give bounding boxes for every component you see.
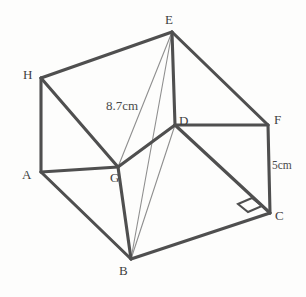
- vertex-label-f: F: [274, 113, 281, 126]
- measurement-label-slant-length: 8.7cm: [106, 99, 138, 112]
- edge-ef: [172, 32, 268, 125]
- edge-bc: [131, 213, 270, 259]
- edge-ed: [172, 32, 175, 125]
- right-angle-markers-group: [238, 198, 262, 212]
- edge-ag: [41, 167, 118, 172]
- vertex-label-b: B: [119, 264, 128, 277]
- right-angle-at-c-marker: [238, 198, 262, 212]
- edge-fc: [268, 125, 270, 213]
- edge-he: [41, 32, 172, 78]
- edge-gb: [118, 167, 131, 259]
- diagonal-eb: [131, 32, 172, 259]
- vertex-label-e: E: [165, 13, 173, 26]
- vertex-label-d: D: [179, 114, 188, 127]
- geometry-diagram: EHFDAGCB 8.7cm5cm: [0, 0, 306, 297]
- vertex-label-a: A: [22, 168, 31, 181]
- vertex-label-h: H: [23, 68, 32, 81]
- cuboid-edges-group: [41, 32, 270, 259]
- vertex-label-c: C: [275, 209, 284, 222]
- measurement-label-height: 5cm: [272, 160, 292, 172]
- edge-ab: [41, 172, 131, 259]
- vertex-label-g: G: [110, 171, 119, 184]
- edge-hg: [41, 78, 118, 167]
- cuboid-drawing: [0, 0, 306, 297]
- diagonal-db: [131, 125, 175, 259]
